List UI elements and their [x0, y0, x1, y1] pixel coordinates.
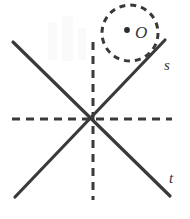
line-t-label: t [169, 170, 174, 186]
figure-canvas: O s t [0, 0, 190, 219]
dashed-circle [102, 5, 158, 61]
line-s-label: s [164, 57, 170, 73]
point-o-dot [124, 27, 130, 33]
point-o-label: O [135, 23, 147, 42]
geometry-figure: O s t [0, 0, 190, 219]
